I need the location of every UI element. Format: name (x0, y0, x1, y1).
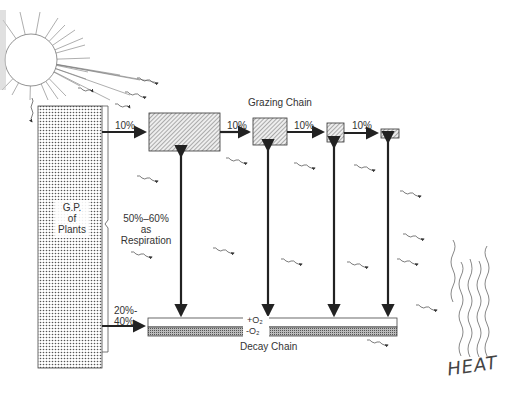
trophic-box-3 (327, 123, 344, 142)
heat-label: HEAT (446, 357, 498, 375)
decay-transfer-label: 20%- 40% (114, 305, 137, 327)
heat-waves (451, 240, 489, 357)
decay-aerobic-bar (148, 318, 397, 327)
trophic-box-1 (149, 113, 220, 151)
transfer-label-2: 10% (227, 120, 247, 131)
respiration-label: 50%–60% as Respiration (114, 213, 178, 246)
trophic-box-4 (381, 129, 399, 138)
transfer-label-4: 10% (352, 120, 372, 131)
decay-anaerobic-bar (148, 327, 397, 336)
aerobic-label: +O₂ (247, 316, 263, 325)
energy-flow-diagram: Grazing Chain 10% 10% 10% 10% G.P. of Pl… (0, 0, 505, 404)
respiration-heat-arrows (131, 158, 437, 346)
transfer-label-1: 10% (115, 120, 135, 131)
producer-label: G.P. of Plants (54, 202, 90, 235)
grazing-chain-label: Grazing Chain (248, 97, 312, 108)
anaerobic-label: -O₂ (246, 327, 260, 336)
decay-chain-label: Decay Chain (240, 341, 297, 352)
sun-icon (0, 10, 155, 100)
trophic-box-2 (253, 118, 287, 145)
transfer-label-3: 10% (294, 120, 314, 131)
